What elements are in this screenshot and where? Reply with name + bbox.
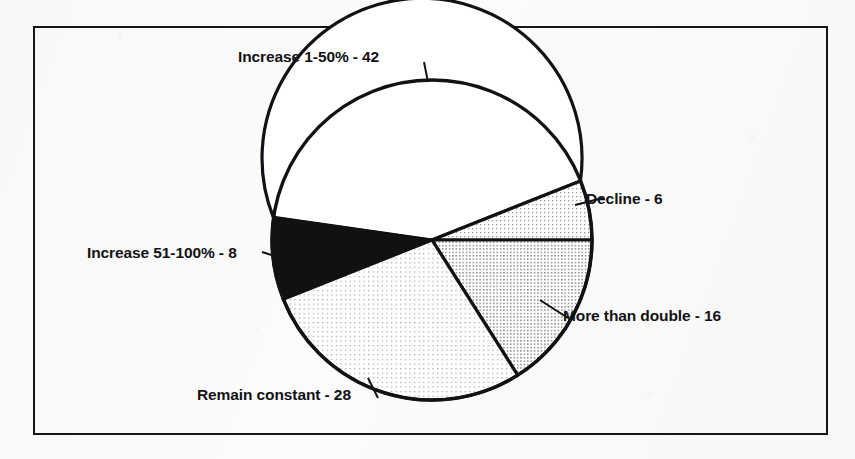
pie-label-decline: Decline - 6 xyxy=(586,190,662,208)
pie-chart-graphic xyxy=(0,0,855,459)
pie-label-increase-1-50: Increase 1-50% - 42 xyxy=(238,48,379,66)
pie-label-more-than-double: More than double - 16 xyxy=(563,307,721,325)
pie-label-remain-constant: Remain constant - 28 xyxy=(197,386,351,404)
chart-page: Increase 1-50% - 42 Decline - 6 More tha… xyxy=(0,0,855,459)
pie-label-increase-51-100: Increase 51-100% - 8 xyxy=(87,244,237,262)
